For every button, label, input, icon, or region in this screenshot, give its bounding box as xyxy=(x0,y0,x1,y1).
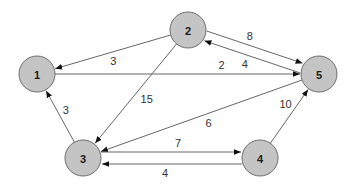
edge-line xyxy=(46,91,74,143)
node-5: 5 xyxy=(301,56,337,92)
edge-weight-label: 3 xyxy=(63,104,69,116)
node-label: 1 xyxy=(34,69,40,81)
edge-weight-label: 7 xyxy=(175,137,181,149)
edge-weight-label: 8 xyxy=(247,30,253,42)
edge-1-to-5: 2 xyxy=(55,59,300,74)
edge-weight-label: 10 xyxy=(279,98,291,110)
node-label: 4 xyxy=(257,153,264,165)
edge-4-to-3: 4 xyxy=(102,164,242,179)
node-1: 1 xyxy=(19,56,55,92)
edge-4-to-5: 10 xyxy=(270,90,308,144)
node-label: 3 xyxy=(80,153,86,165)
node-3: 3 xyxy=(65,140,101,176)
edge-2-to-3: 15 xyxy=(95,44,177,143)
edge-weight-label: 3 xyxy=(110,55,116,67)
nodes-layer: 12345 xyxy=(19,12,337,176)
edge-3-to-1: 3 xyxy=(46,91,74,143)
edge-weight-label: 15 xyxy=(141,93,153,105)
node-4: 4 xyxy=(242,140,278,176)
node-label: 5 xyxy=(316,69,322,81)
graph-diagram: 328415637410 12345 xyxy=(0,0,355,184)
edge-weight-label: 4 xyxy=(242,58,248,70)
edge-weight-label: 4 xyxy=(162,167,168,179)
node-label: 2 xyxy=(185,25,191,37)
node-2: 2 xyxy=(170,12,206,48)
edge-2-to-1: 3 xyxy=(55,35,171,69)
edge-weight-label: 6 xyxy=(205,117,211,129)
edge-weight-label: 2 xyxy=(219,59,225,71)
edge-line xyxy=(95,44,177,143)
